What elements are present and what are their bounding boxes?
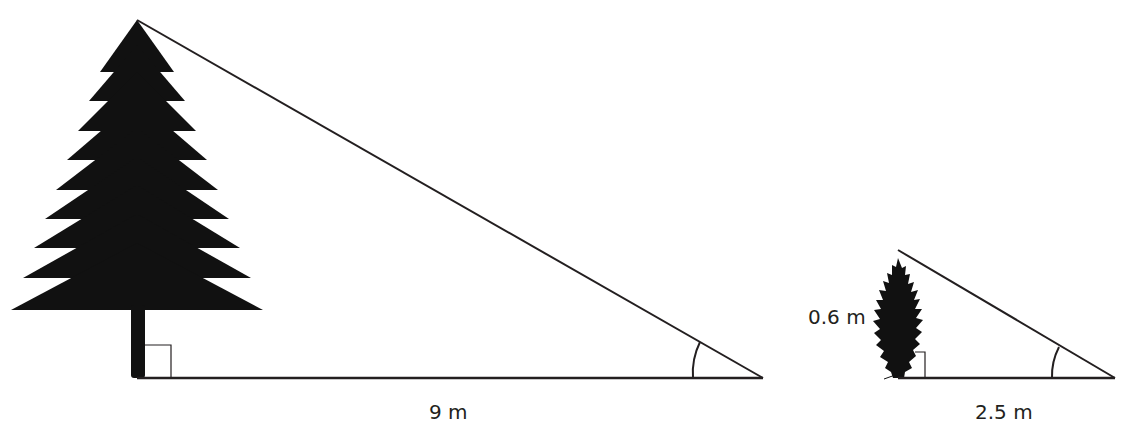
large-base-label: 9 m bbox=[429, 400, 468, 424]
similar-triangles-diagram bbox=[0, 0, 1122, 435]
large-triangle bbox=[137, 20, 763, 378]
angle-arc bbox=[693, 342, 700, 378]
right-angle-marker bbox=[145, 345, 171, 378]
small-triangle bbox=[898, 250, 1115, 378]
angle-arc-small bbox=[1052, 347, 1059, 378]
small-shrub-icon bbox=[873, 258, 923, 379]
tall-tree-icon bbox=[11, 20, 263, 378]
right-angle-marker-small bbox=[915, 352, 925, 378]
small-height-label: 0.6 m bbox=[808, 305, 866, 329]
small-base-label: 2.5 m bbox=[975, 400, 1033, 424]
